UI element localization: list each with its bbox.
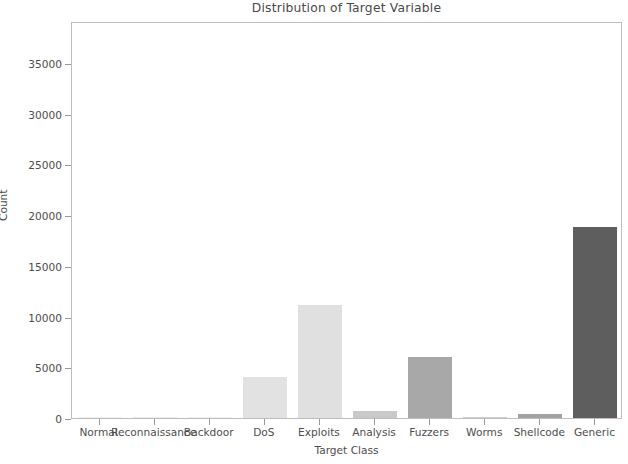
bar-analysis — [353, 411, 397, 418]
bar-normal — [78, 417, 122, 418]
y-tick-label: 25000 — [28, 160, 62, 171]
x-tick-label-generic: Generic — [574, 427, 615, 439]
x-tick-label-worms: Worms — [466, 427, 502, 439]
y-tick-label: 20000 — [28, 211, 62, 222]
y-tick-label: 15000 — [28, 262, 62, 273]
x-tick-label-analysis: Analysis — [352, 427, 396, 439]
x-tick-mark — [154, 419, 155, 425]
y-tick-label: 35000 — [28, 59, 62, 70]
x-tick-label-fuzzers: Fuzzers — [409, 427, 449, 439]
x-tick-mark — [484, 419, 485, 425]
bar-dos — [243, 377, 287, 418]
bar-reconnaissance — [133, 417, 177, 418]
x-tick-label-dos: DoS — [253, 427, 274, 439]
x-tick-label-exploits: Exploits — [298, 427, 340, 439]
bar-fuzzers — [408, 357, 452, 418]
x-axis-label: Target Class — [71, 444, 622, 456]
bar-backdoor — [188, 417, 232, 418]
y-tick-label: 0 — [55, 414, 62, 425]
x-tick-mark — [264, 419, 265, 425]
x-tick-mark — [594, 419, 595, 425]
x-tick-mark — [429, 419, 430, 425]
x-tick-label-shellcode: Shellcode — [514, 427, 565, 439]
x-tick-mark — [539, 419, 540, 425]
y-tick-label: 5000 — [35, 363, 62, 374]
bars-layer — [72, 23, 621, 418]
plot-area — [71, 22, 622, 419]
bar-worms — [463, 417, 507, 418]
y-axis-label: Count — [0, 190, 9, 221]
bar-generic — [573, 227, 617, 418]
x-tick-mark — [319, 419, 320, 425]
chart-title: Distribution of Target Variable — [71, 1, 622, 15]
x-tick-label-backdoor: Backdoor — [184, 427, 234, 439]
x-tick-mark — [209, 419, 210, 425]
x-tick-mark — [374, 419, 375, 425]
chart-figure: Distribution of Target Variable Count 05… — [0, 0, 628, 464]
x-tick-mark — [99, 419, 100, 425]
y-tick-mark — [65, 419, 71, 420]
y-tick-label: 10000 — [28, 312, 62, 323]
bar-exploits — [298, 305, 342, 418]
y-tick-label: 30000 — [28, 109, 62, 120]
bar-shellcode — [518, 414, 562, 418]
